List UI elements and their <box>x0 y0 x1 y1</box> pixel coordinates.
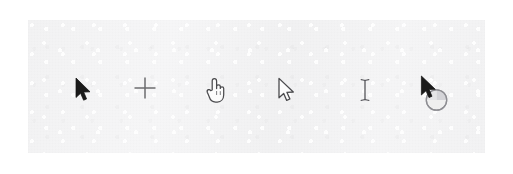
paper-grain-overlay <box>28 20 485 153</box>
crosshair-icon <box>133 76 157 100</box>
arrow-pointer-icon <box>74 77 96 105</box>
arrow-pointer-outline-icon <box>277 77 299 105</box>
cursor-gallery-stage <box>0 0 513 174</box>
arrow-busy-icon <box>418 74 452 114</box>
text-ibeam-icon <box>358 77 372 103</box>
pointing-hand-icon <box>204 77 227 104</box>
cursor-sample-sheet <box>28 20 485 153</box>
